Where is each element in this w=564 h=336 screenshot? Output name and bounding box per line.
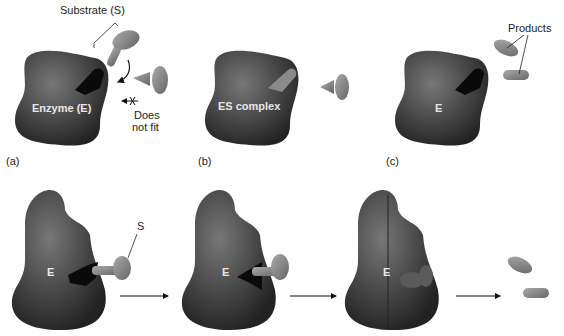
- es-complex-shape: [205, 51, 298, 146]
- enzyme-shape: [395, 51, 488, 146]
- nofit-label-2: not fit: [132, 121, 159, 133]
- panel-a-tag: (a): [6, 155, 19, 167]
- panel-b: ES complex (b): [198, 51, 349, 167]
- enzyme-diagram: Enzyme (E) Does not fit Substrate (S) (a…: [0, 0, 564, 336]
- substrate-label: S: [137, 220, 144, 232]
- induced-step-2: E: [182, 190, 289, 330]
- induced-step-3: E: [345, 190, 439, 330]
- substrate-pointer: [128, 234, 137, 258]
- enzyme-label: E: [435, 102, 442, 114]
- enzyme-label: E: [383, 266, 390, 278]
- induced-step-1: E S: [12, 190, 144, 330]
- panel-b-tag: (b): [198, 155, 211, 167]
- free-substrate: [320, 74, 349, 100]
- product-1: [505, 253, 534, 277]
- product-2: [503, 70, 529, 80]
- enzyme-shape: [345, 190, 439, 330]
- substrate-fit: [106, 27, 143, 68]
- product-2: [523, 288, 549, 298]
- bound-substrate-head: [419, 265, 433, 287]
- panel-c: E Products (c): [386, 22, 552, 167]
- complex-label: ES complex: [218, 100, 281, 112]
- enzyme-shape: [12, 190, 106, 330]
- panel-c-tag: (c): [386, 155, 399, 167]
- substrate-head: [271, 254, 289, 280]
- panel-a: Enzyme (E) Does not fit Substrate (S) (a…: [6, 4, 168, 167]
- enzyme-shape: [15, 51, 108, 146]
- substrate-head: [113, 256, 131, 280]
- product-1: [491, 36, 520, 60]
- enzyme-label: E: [47, 266, 54, 278]
- fit-arrow: [118, 60, 130, 82]
- nofit-label-1: Does: [134, 109, 160, 121]
- products-label: Products: [508, 22, 552, 34]
- enzyme-label: Enzyme (E): [32, 102, 92, 114]
- substrate-nofit: [133, 66, 168, 94]
- enzyme-shape: [182, 190, 276, 330]
- substrate-label: Substrate (S): [60, 4, 125, 16]
- enzyme-label: E: [222, 266, 229, 278]
